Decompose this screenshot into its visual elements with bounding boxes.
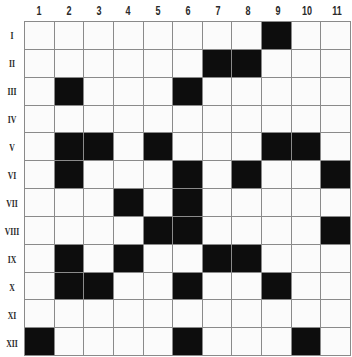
grid-cell-VIII-11[interactable]: [321, 217, 351, 245]
grid-cell-VII-1[interactable]: [25, 189, 55, 217]
grid-cell-IV-11[interactable]: [321, 106, 351, 134]
grid-cell-XII-10[interactable]: [292, 328, 322, 356]
grid-cell-X-8[interactable]: [232, 273, 262, 301]
grid-cell-III-6[interactable]: [173, 78, 203, 106]
grid-cell-VII-6[interactable]: [173, 189, 203, 217]
grid-cell-I-8[interactable]: [232, 22, 262, 50]
grid-cell-XI-4[interactable]: [114, 300, 144, 328]
grid-cell-XI-11[interactable]: [321, 300, 351, 328]
grid-cell-V-1[interactable]: [25, 133, 55, 161]
grid-cell-XII-11[interactable]: [321, 328, 351, 356]
grid-cell-I-3[interactable]: [84, 22, 114, 50]
grid-cell-X-9[interactable]: [262, 273, 292, 301]
grid-cell-XI-1[interactable]: [25, 300, 55, 328]
grid-cell-X-2[interactable]: [55, 273, 85, 301]
grid-cell-V-9[interactable]: [262, 133, 292, 161]
grid-cell-I-4[interactable]: [114, 22, 144, 50]
grid-cell-V-11[interactable]: [321, 133, 351, 161]
grid-cell-III-7[interactable]: [203, 78, 233, 106]
grid-cell-IX-1[interactable]: [25, 245, 55, 273]
grid-cell-XI-3[interactable]: [84, 300, 114, 328]
grid-cell-VII-9[interactable]: [262, 189, 292, 217]
grid-cell-I-9[interactable]: [262, 22, 292, 50]
grid-cell-III-5[interactable]: [144, 78, 174, 106]
grid-cell-XII-5[interactable]: [144, 328, 174, 356]
grid-cell-V-7[interactable]: [203, 133, 233, 161]
grid-cell-IV-7[interactable]: [203, 106, 233, 134]
grid-cell-XII-7[interactable]: [203, 328, 233, 356]
grid-cell-III-11[interactable]: [321, 78, 351, 106]
grid-cell-XI-9[interactable]: [262, 300, 292, 328]
grid-cell-VII-11[interactable]: [321, 189, 351, 217]
grid-cell-I-7[interactable]: [203, 22, 233, 50]
grid-cell-XII-2[interactable]: [55, 328, 85, 356]
grid-cell-IX-4[interactable]: [114, 245, 144, 273]
grid-cell-IX-9[interactable]: [262, 245, 292, 273]
grid-cell-V-4[interactable]: [114, 133, 144, 161]
grid-cell-IV-3[interactable]: [84, 106, 114, 134]
grid-cell-X-6[interactable]: [173, 273, 203, 301]
grid-cell-XII-4[interactable]: [114, 328, 144, 356]
grid-cell-II-8[interactable]: [232, 50, 262, 78]
grid-cell-IX-5[interactable]: [144, 245, 174, 273]
grid-cell-VI-1[interactable]: [25, 161, 55, 189]
grid-cell-IX-6[interactable]: [173, 245, 203, 273]
grid-cell-XI-10[interactable]: [292, 300, 322, 328]
grid-cell-IV-1[interactable]: [25, 106, 55, 134]
grid-cell-IV-4[interactable]: [114, 106, 144, 134]
grid-cell-VI-11[interactable]: [321, 161, 351, 189]
grid-cell-VI-2[interactable]: [55, 161, 85, 189]
grid-cell-III-8[interactable]: [232, 78, 262, 106]
grid-cell-VIII-8[interactable]: [232, 217, 262, 245]
grid-cell-XI-2[interactable]: [55, 300, 85, 328]
grid-cell-II-10[interactable]: [292, 50, 322, 78]
grid-cell-III-2[interactable]: [55, 78, 85, 106]
grid-cell-II-6[interactable]: [173, 50, 203, 78]
grid-cell-III-1[interactable]: [25, 78, 55, 106]
grid-cell-V-3[interactable]: [84, 133, 114, 161]
grid-cell-VII-10[interactable]: [292, 189, 322, 217]
grid-cell-V-5[interactable]: [144, 133, 174, 161]
grid-cell-VII-3[interactable]: [84, 189, 114, 217]
grid-cell-X-3[interactable]: [84, 273, 114, 301]
grid-cell-II-5[interactable]: [144, 50, 174, 78]
grid-cell-X-4[interactable]: [114, 273, 144, 301]
grid-cell-VIII-1[interactable]: [25, 217, 55, 245]
grid-cell-X-10[interactable]: [292, 273, 322, 301]
grid-cell-III-4[interactable]: [114, 78, 144, 106]
grid-cell-I-1[interactable]: [25, 22, 55, 50]
grid-cell-X-7[interactable]: [203, 273, 233, 301]
grid-cell-VIII-7[interactable]: [203, 217, 233, 245]
grid-cell-IV-2[interactable]: [55, 106, 85, 134]
grid-cell-VI-3[interactable]: [84, 161, 114, 189]
grid-cell-XII-3[interactable]: [84, 328, 114, 356]
grid-cell-VIII-3[interactable]: [84, 217, 114, 245]
grid-cell-II-11[interactable]: [321, 50, 351, 78]
grid-cell-VIII-2[interactable]: [55, 217, 85, 245]
grid-cell-III-9[interactable]: [262, 78, 292, 106]
grid-cell-IV-10[interactable]: [292, 106, 322, 134]
grid-cell-X-11[interactable]: [321, 273, 351, 301]
grid-cell-XII-1[interactable]: [25, 328, 55, 356]
grid-cell-II-7[interactable]: [203, 50, 233, 78]
grid-cell-IX-11[interactable]: [321, 245, 351, 273]
grid-cell-VIII-10[interactable]: [292, 217, 322, 245]
grid-cell-IV-6[interactable]: [173, 106, 203, 134]
grid-cell-XI-6[interactable]: [173, 300, 203, 328]
grid-cell-I-10[interactable]: [292, 22, 322, 50]
grid-cell-XII-6[interactable]: [173, 328, 203, 356]
grid-cell-V-10[interactable]: [292, 133, 322, 161]
grid-cell-II-1[interactable]: [25, 50, 55, 78]
grid-cell-V-8[interactable]: [232, 133, 262, 161]
grid-cell-IV-9[interactable]: [262, 106, 292, 134]
grid-cell-VI-4[interactable]: [114, 161, 144, 189]
grid-cell-XI-8[interactable]: [232, 300, 262, 328]
grid-cell-VI-5[interactable]: [144, 161, 174, 189]
grid-cell-II-4[interactable]: [114, 50, 144, 78]
grid-cell-I-5[interactable]: [144, 22, 174, 50]
grid-cell-I-2[interactable]: [55, 22, 85, 50]
grid-cell-IV-5[interactable]: [144, 106, 174, 134]
grid-cell-IX-10[interactable]: [292, 245, 322, 273]
grid-cell-VI-10[interactable]: [292, 161, 322, 189]
grid-cell-VII-4[interactable]: [114, 189, 144, 217]
